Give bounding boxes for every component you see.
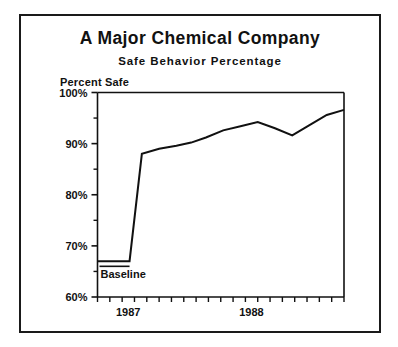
data-line	[98, 110, 345, 261]
x-tick-label: 1988	[239, 306, 263, 318]
y-tick-label: 80%	[65, 189, 87, 201]
y-tick-label: 90%	[65, 138, 87, 150]
plot-area: 100%90%80%70%60%19871988Baseline	[0, 0, 398, 347]
chart-figure: A Major Chemical Company Safe Behavior P…	[0, 0, 398, 347]
x-tick-label: 1987	[116, 306, 140, 318]
baseline-annotation: Baseline	[101, 268, 146, 280]
y-tick-label: 100%	[59, 87, 87, 99]
y-tick-label: 70%	[65, 240, 87, 252]
y-tick-label: 60%	[65, 291, 87, 303]
